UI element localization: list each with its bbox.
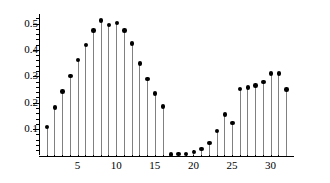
x-axis-tick-label: 15 [140, 160, 170, 171]
y-axis-tick-label: 0.1 [24, 123, 38, 134]
data-point [269, 71, 273, 75]
data-point [253, 83, 257, 87]
data-point [138, 61, 142, 65]
y-axis-minor-tick [36, 108, 39, 109]
data-point [284, 87, 288, 91]
stem-line [232, 123, 233, 156]
data-point [223, 112, 227, 116]
stem-line [124, 31, 125, 156]
data-point [45, 125, 49, 129]
data-point [169, 152, 173, 156]
stem-line [263, 82, 264, 155]
x-axis-tick-label: 5 [63, 160, 93, 171]
data-point [246, 85, 250, 89]
data-point [230, 121, 234, 125]
data-point [161, 104, 165, 108]
data-point [153, 91, 157, 95]
y-axis-minor-tick [36, 29, 39, 30]
y-axis-minor-tick [36, 119, 39, 120]
data-point [115, 21, 119, 25]
stem-line [286, 90, 287, 156]
data-point [84, 43, 88, 47]
stem-line [255, 86, 256, 156]
y-axis-minor-tick [36, 34, 39, 35]
stem-line [116, 23, 117, 156]
stem-line [224, 115, 225, 156]
data-point [261, 80, 265, 84]
stem-line [240, 89, 241, 155]
data-point [122, 28, 126, 32]
y-axis-tick-label: 0.5 [24, 18, 38, 29]
stem-line [54, 107, 55, 155]
y-axis-minor-tick [36, 66, 39, 67]
y-axis-line [39, 14, 40, 155]
stem-line [217, 131, 218, 155]
data-point [60, 89, 64, 93]
x-axis-tick-label: 10 [101, 160, 131, 171]
y-axis-minor-tick [36, 39, 39, 40]
stem-line [70, 76, 71, 156]
stem-line [155, 93, 156, 155]
y-axis-minor-tick [36, 145, 39, 146]
plot-area: 510152025300.10.20.30.40.5 [0, 0, 330, 183]
data-point [68, 74, 72, 78]
y-axis-minor-tick [36, 134, 39, 135]
data-point [207, 141, 211, 145]
data-point [176, 152, 180, 156]
y-axis-minor-tick [36, 55, 39, 56]
stem-line [85, 45, 86, 155]
x-axis-tick-label: 30 [256, 160, 286, 171]
data-point [199, 147, 203, 151]
data-point [238, 87, 242, 91]
data-point [277, 71, 281, 75]
y-axis-minor-tick [36, 60, 39, 61]
data-point [215, 129, 219, 133]
data-point [53, 105, 57, 109]
data-point [145, 77, 149, 81]
y-axis-tick-label: 0.4 [24, 44, 38, 55]
data-point [192, 150, 196, 154]
x-axis-tick-label: 20 [178, 160, 208, 171]
stem-line [132, 44, 133, 156]
stem-line [93, 30, 94, 155]
stem-line [247, 88, 248, 156]
data-point [91, 28, 95, 32]
data-point [107, 23, 111, 27]
stem-line [108, 25, 109, 155]
chart-figure: 510152025300.10.20.30.40.5 [0, 0, 330, 183]
x-axis-tick-label: 25 [217, 160, 247, 171]
y-axis-minor-tick [36, 82, 39, 83]
y-axis-tick-label: 0.2 [24, 97, 38, 108]
stem-line [47, 127, 48, 156]
data-point [130, 41, 134, 45]
y-axis-minor-tick [36, 113, 39, 114]
stem-line [147, 79, 148, 155]
y-axis-minor-tick [36, 150, 39, 151]
y-axis-tick-label: 0.3 [24, 70, 38, 81]
stem-line [271, 73, 272, 155]
y-axis-minor-tick [36, 87, 39, 88]
data-point [76, 58, 80, 62]
stem-line [278, 73, 279, 155]
stem-line [78, 60, 79, 156]
stem-line [101, 21, 102, 156]
stem-line [163, 106, 164, 155]
y-axis-minor-tick [36, 140, 39, 141]
x-axis-line [39, 156, 294, 157]
data-point [99, 18, 103, 22]
stem-line [62, 92, 63, 156]
y-axis-minor-tick [36, 92, 39, 93]
stem-line [139, 64, 140, 156]
